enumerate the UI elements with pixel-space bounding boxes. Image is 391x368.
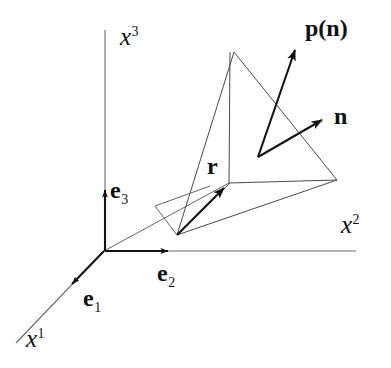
tetrahedron — [155, 52, 337, 235]
coordinate-axes — [16, 30, 356, 343]
basis-label-e1-base: e — [83, 285, 94, 311]
basis-vector-arrows — [72, 190, 168, 284]
axis-label-x1: x1 — [26, 326, 45, 351]
axis-label-x2-superscript: 2 — [353, 212, 360, 227]
tetra-edge-apex-inner — [229, 52, 230, 184]
cauchy-tetrahedron-figure: x3 x2 x1 e3 e2 e1 r n p(n) — [0, 0, 391, 368]
basis-label-e3: e3 — [110, 178, 128, 202]
axis-label-x2: x2 — [341, 212, 360, 237]
tetra-edge-apex-right — [234, 52, 337, 180]
vector-pn-arrow — [258, 50, 295, 157]
vector-label-r: r — [207, 154, 218, 178]
tetra-edge-frontleft-right — [177, 180, 337, 235]
axis-label-x3-base: x — [120, 23, 131, 50]
axis-label-x3-superscript: 3 — [132, 24, 139, 39]
basis-label-e2: e2 — [157, 261, 175, 285]
field-vector-arrows — [177, 50, 322, 235]
axis-label-x1-superscript: 1 — [38, 326, 45, 341]
basis-label-e3-base: e — [110, 177, 121, 203]
axis-label-x3: x3 — [120, 24, 139, 49]
basis-label-e3-subscript: 3 — [121, 192, 128, 207]
basis-label-e2-subscript: 2 — [168, 275, 175, 290]
basis-label-e2-base: e — [157, 260, 168, 286]
basis-vector-e1-arrow — [72, 251, 104, 284]
tetra-edge-inner-right — [229, 180, 337, 183]
basis-label-e1-subscript: 1 — [94, 300, 101, 315]
figure-canvas — [0, 0, 391, 368]
basis-label-e1: e1 — [83, 286, 101, 310]
vector-label-n: n — [334, 104, 347, 128]
vector-label-pn: p(n) — [305, 16, 348, 40]
axis-label-x2-base: x — [341, 211, 352, 238]
tetra-edge-frontleft-rear — [155, 206, 177, 235]
axis-label-x1-base: x — [26, 325, 37, 352]
tetra-edge-rear-apex — [155, 186, 210, 206]
vector-n-arrow — [258, 120, 322, 157]
